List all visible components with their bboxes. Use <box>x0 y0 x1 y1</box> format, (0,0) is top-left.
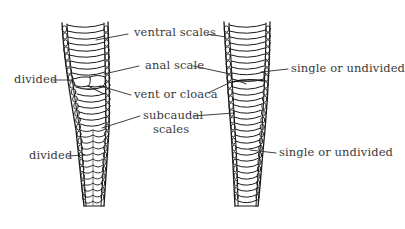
label-anal-scale: anal scale <box>145 60 204 72</box>
label-ventral-scales: ventral scales <box>134 27 216 39</box>
label-single-undivided-subcaudal: single or undivided <box>279 147 393 159</box>
right-snake-underside <box>224 22 270 206</box>
label-subcaudal-scales: scales <box>153 124 189 136</box>
left-snake-underside <box>62 22 110 206</box>
label-vent-or-cloaca: vent or cloaca <box>134 89 218 101</box>
label-divided-subcaudal: divided <box>29 150 72 162</box>
label-divided-anal: divided <box>14 74 57 86</box>
label-single-undivided-anal: single or undivided <box>291 63 405 75</box>
label-subcaudal: subcaudal <box>143 110 203 122</box>
